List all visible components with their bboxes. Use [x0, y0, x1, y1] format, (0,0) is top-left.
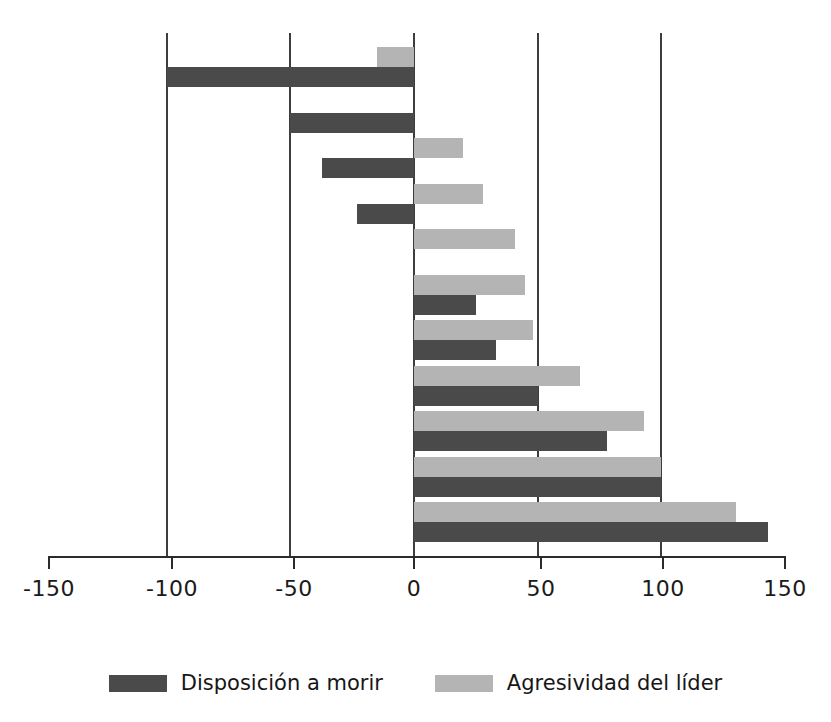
bar-agresividad-4	[414, 184, 483, 204]
x-tick-100	[662, 556, 664, 569]
bar-agresividad-3	[414, 138, 463, 158]
bar-disposicion-8	[414, 386, 538, 406]
x-tick-label--150: -150	[4, 576, 94, 601]
bar-chart: -150-100-50050100150 Disposición a morir…	[0, 0, 831, 722]
bar-disposicion-7	[414, 340, 496, 360]
bar-agresividad-8	[414, 366, 580, 386]
legend-label-2: Agresividad del líder	[507, 671, 722, 695]
x-tick--150	[48, 556, 50, 569]
x-tick-label--50: -50	[249, 576, 339, 601]
x-tick-50	[540, 556, 542, 569]
bar-disposicion-4	[357, 204, 414, 224]
bar-disposicion-1	[167, 67, 414, 87]
x-tick-0	[413, 556, 415, 569]
x-tick--100	[171, 556, 173, 569]
x-tick-label-150: 150	[740, 576, 830, 601]
x-tick-label--100: -100	[127, 576, 217, 601]
chart-legend: Disposición a morirAgresividad del líder	[0, 663, 831, 703]
bar-agresividad-9	[414, 411, 644, 431]
legend-swatch-dark	[109, 675, 167, 692]
bar-agresividad-6	[414, 275, 525, 295]
bar-disposicion-9	[414, 431, 607, 451]
x-tick--50	[293, 556, 295, 569]
x-axis-line	[49, 556, 786, 558]
legend-swatch-light	[435, 675, 493, 692]
bar-agresividad-5	[414, 229, 515, 249]
bar-agresividad-1	[377, 47, 414, 67]
bar-agresividad-11	[414, 502, 736, 522]
bar-disposicion-6	[414, 295, 476, 315]
gridline--100	[166, 33, 168, 556]
bar-agresividad-7	[414, 320, 533, 340]
bar-disposicion-10	[414, 477, 661, 497]
legend-label-1: Disposición a morir	[181, 671, 383, 695]
x-tick-label-50: 50	[496, 576, 586, 601]
plot-area	[0, 0, 831, 566]
x-tick-label-100: 100	[618, 576, 708, 601]
x-tick-label-0: 0	[369, 576, 459, 601]
bar-disposicion-11	[414, 522, 768, 542]
x-tick-150	[784, 556, 786, 569]
bar-disposicion-3	[322, 158, 414, 178]
legend-item-2[interactable]: Agresividad del líder	[435, 671, 722, 695]
gridline--50	[289, 33, 291, 556]
bar-agresividad-10	[414, 457, 661, 477]
legend-item-1[interactable]: Disposición a morir	[109, 671, 383, 695]
bar-disposicion-2	[290, 113, 414, 133]
x-axis: -150-100-50050100150	[49, 556, 786, 557]
